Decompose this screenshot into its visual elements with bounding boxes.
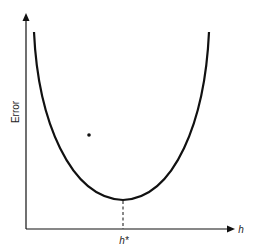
data-point-dot — [87, 133, 91, 137]
y-axis-arrow-icon — [23, 13, 30, 21]
y-axis-label: Error — [10, 100, 21, 123]
error-curve — [34, 32, 209, 200]
x-axis-label: h — [238, 224, 244, 235]
minimum-label: h* — [119, 235, 130, 246]
error-curve-diagram: Error h h* — [0, 0, 256, 250]
x-axis-arrow-icon — [227, 226, 235, 233]
